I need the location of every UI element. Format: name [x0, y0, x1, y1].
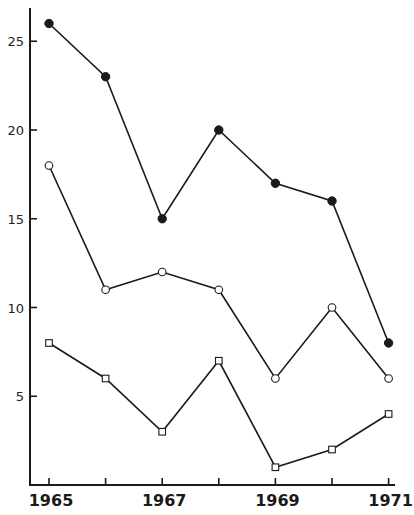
series-layer: [45, 19, 393, 470]
open-circle-marker: [158, 268, 166, 276]
series-open-square: [46, 340, 392, 471]
y-tick-label: 25: [7, 34, 24, 49]
y-tick-label: 15: [7, 212, 24, 227]
filled-circle-marker: [215, 126, 223, 134]
open-circle-marker: [385, 375, 393, 383]
x-axis: 1965196719691971: [29, 478, 413, 510]
filled-circle-marker: [328, 197, 336, 205]
open-square-marker: [216, 357, 223, 364]
filled-circle-marker: [101, 73, 109, 81]
y-tick-label: 10: [7, 301, 24, 316]
open-circle-marker: [215, 286, 223, 294]
open-square-marker: [385, 411, 392, 418]
y-ticks: 510152025: [7, 34, 37, 404]
y-tick-label: 5: [16, 389, 24, 404]
open-square-marker: [46, 340, 53, 347]
x-ticks: 1965196719691971: [29, 478, 413, 510]
open-circle-marker: [45, 162, 53, 170]
x-tick-label: 1967: [142, 491, 187, 510]
series-line: [49, 166, 389, 379]
filled-circle-marker: [271, 179, 279, 187]
open-circle-marker: [102, 286, 110, 294]
open-circle-marker: [328, 304, 336, 312]
open-square-marker: [102, 375, 109, 382]
y-axis: 510152025: [7, 8, 37, 485]
x-tick-label: 1969: [255, 491, 300, 510]
x-tick-label: 1971: [368, 491, 413, 510]
line-chart: 510152025 1965196719691971: [0, 0, 414, 515]
filled-circle-marker: [45, 19, 53, 27]
series-filled-circle: [45, 19, 393, 347]
open-square-marker: [272, 464, 279, 471]
open-square-marker: [159, 428, 166, 435]
y-tick-label: 20: [7, 123, 24, 138]
filled-circle-marker: [384, 339, 392, 347]
x-tick-label: 1965: [29, 491, 74, 510]
open-square-marker: [329, 446, 336, 453]
open-circle-marker: [272, 375, 280, 383]
series-open-circle: [45, 162, 392, 383]
filled-circle-marker: [158, 215, 166, 223]
series-line: [49, 24, 389, 344]
